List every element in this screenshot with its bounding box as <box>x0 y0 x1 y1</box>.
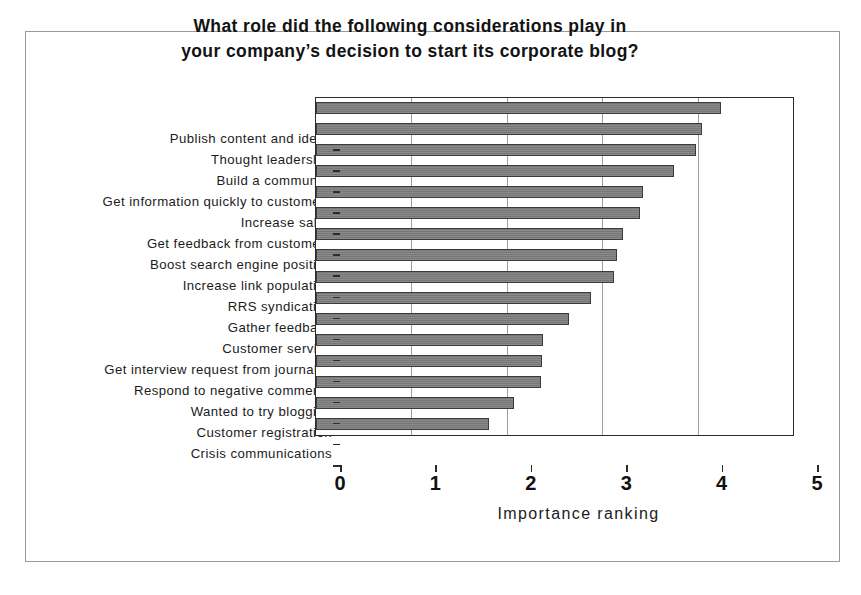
y-axis-tick <box>333 233 340 235</box>
y-axis-tick <box>333 318 340 320</box>
x-axis-tick-2 <box>531 465 533 472</box>
y-axis-tick <box>333 423 340 425</box>
bar-row <box>316 372 793 393</box>
bar <box>316 334 543 346</box>
bar <box>316 186 643 198</box>
category-label: Respond to negative comments <box>134 383 332 398</box>
bar <box>316 123 702 135</box>
category-label: Boost search engine position <box>150 257 332 272</box>
plot-area <box>315 97 794 436</box>
bar-row <box>316 245 793 266</box>
x-axis-tick-label: 4 <box>707 472 737 495</box>
x-axis-tick-3 <box>626 465 628 472</box>
bar-row <box>316 140 793 161</box>
bar <box>316 249 617 261</box>
bar-row <box>316 182 793 203</box>
bar-row <box>316 203 793 224</box>
x-axis-tick-1 <box>435 465 437 472</box>
x-axis-tick-label: 1 <box>420 472 450 495</box>
bar <box>316 207 640 219</box>
bar <box>316 376 541 388</box>
bar <box>316 271 614 283</box>
y-axis-tick <box>333 402 340 404</box>
bar-row <box>316 98 793 119</box>
x-axis-tick-label: 0 <box>325 472 355 495</box>
y-axis-tick <box>333 381 340 383</box>
bar-row <box>316 267 793 288</box>
bar-row <box>316 161 793 182</box>
x-axis-tick-4 <box>722 465 724 472</box>
y-axis-tick <box>333 275 340 277</box>
category-label: Thought leadership <box>211 152 332 167</box>
category-label: Increase link population <box>183 278 332 293</box>
bar <box>316 102 721 114</box>
y-axis-tick <box>333 191 340 193</box>
y-axis-tick <box>333 170 340 172</box>
y-axis-tick <box>333 212 340 214</box>
y-axis-tick <box>333 297 340 299</box>
bar <box>316 228 623 240</box>
category-label: Crisis communications <box>191 446 332 461</box>
chart-title-line-1: What role did the following consideratio… <box>90 14 730 39</box>
x-axis-tick-label: 2 <box>516 472 546 495</box>
bar-row <box>316 351 793 372</box>
bar-row <box>316 414 793 435</box>
bar <box>316 144 696 156</box>
x-axis-tick-5 <box>817 465 819 472</box>
bar <box>316 313 569 325</box>
bar <box>316 397 514 409</box>
category-label: Customer registration <box>196 425 332 440</box>
bar-row <box>316 288 793 309</box>
bar-series <box>316 98 793 435</box>
x-axis-tick-label: 3 <box>611 472 641 495</box>
category-label: Wanted to try blogging <box>191 404 332 419</box>
bar <box>316 165 674 177</box>
x-axis-tick-label: 5 <box>802 472 832 495</box>
bar-row <box>316 309 793 330</box>
bar <box>316 355 542 367</box>
x-axis-title: Importance ranking <box>340 505 817 523</box>
chart-title-line-2: your company’s decision to start its cor… <box>90 39 730 64</box>
y-axis-tick <box>333 339 340 341</box>
category-label: Get information quickly to customers <box>103 194 332 209</box>
y-axis-tick <box>333 360 340 362</box>
chart-title: What role did the following consideratio… <box>90 14 730 64</box>
bar <box>316 418 489 430</box>
y-axis-tick <box>333 444 340 446</box>
y-axis-tick <box>333 149 340 151</box>
y-axis-tick <box>333 465 340 467</box>
bar-row <box>316 119 793 140</box>
category-label: Get feedback from customers <box>147 236 332 251</box>
y-axis-tick <box>333 254 340 256</box>
x-axis-tick-0 <box>340 465 342 472</box>
bar <box>316 292 591 304</box>
bar-row <box>316 393 793 414</box>
category-label: Get interview request from journalist <box>104 362 332 377</box>
bar-row <box>316 224 793 245</box>
category-label: Publish content and ideas <box>170 131 332 146</box>
bar-row <box>316 330 793 351</box>
category-axis-labels: Publish content and ideasThought leaders… <box>0 128 332 465</box>
